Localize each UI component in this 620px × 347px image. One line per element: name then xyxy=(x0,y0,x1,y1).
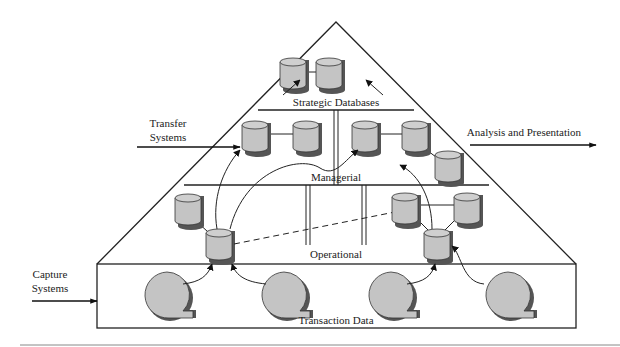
operational-tier: Operational xyxy=(175,193,483,265)
database-icon xyxy=(402,121,431,157)
analysis-presentation-flow: Analysis and Presentation xyxy=(467,126,596,145)
capture-label-2: Systems xyxy=(32,282,69,294)
analysis-label: Analysis and Presentation xyxy=(467,126,582,138)
dashed-link xyxy=(234,212,395,244)
tape-reel-icon xyxy=(369,272,420,321)
transaction-label: Transaction Data xyxy=(298,314,373,326)
capture-label-1: Capture xyxy=(33,268,68,280)
strategic-label: Strategic Databases xyxy=(293,96,379,108)
database-icon xyxy=(424,229,453,265)
database-icon xyxy=(293,121,322,157)
transfer-systems-flow: Transfer Systems xyxy=(137,117,240,147)
database-icon xyxy=(175,194,204,230)
database-icon xyxy=(454,193,483,229)
operational-label: Operational xyxy=(310,248,362,260)
tape-reel-icon xyxy=(145,272,196,321)
database-icon xyxy=(242,121,271,157)
tape-reel-icon xyxy=(486,272,537,321)
database-icon xyxy=(316,58,345,94)
database-icon xyxy=(435,151,464,187)
transfer-label-2: Systems xyxy=(150,131,187,143)
capture-systems-flow: Capture Systems xyxy=(32,268,97,301)
database-icon xyxy=(206,229,235,265)
database-icon xyxy=(392,193,421,229)
transfer-label-1: Transfer xyxy=(150,117,187,129)
managerial-label: Managerial xyxy=(311,171,361,183)
database-icon xyxy=(280,58,309,94)
data-warehouse-diagram: Strategic Databases Managerial Operation… xyxy=(0,0,620,347)
strategic-tier: Strategic Databases xyxy=(280,58,383,108)
